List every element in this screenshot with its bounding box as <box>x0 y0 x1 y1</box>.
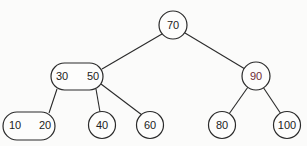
node-70: 70 <box>159 11 187 39</box>
edge-left-lr <box>101 84 142 115</box>
edge-root-right <box>185 33 245 69</box>
node-80: 80 <box>209 112 236 139</box>
node-100: 100 <box>274 112 301 139</box>
node-label: 30 <box>56 70 68 82</box>
node-label: 80 <box>216 119 228 131</box>
edge-root-left <box>102 34 162 69</box>
node-label: 70 <box>167 19 179 31</box>
node-60: 60 <box>137 112 164 139</box>
node-label: 60 <box>144 119 156 131</box>
node-40: 40 <box>89 112 116 139</box>
tree-diagram: 70 30 50 90 10 20 40 60 80 100 <box>0 0 307 146</box>
edge-right-rr <box>263 87 281 114</box>
node-10-20: 10 20 <box>3 112 55 140</box>
edge-left-lm <box>96 89 100 112</box>
node-label: 40 <box>96 119 108 131</box>
edge-right-rl <box>229 87 248 114</box>
node-90: 90 <box>242 62 270 90</box>
node-30-50: 30 50 <box>51 63 103 90</box>
node-label: 100 <box>278 119 296 131</box>
edge-left-ll <box>49 89 57 113</box>
node-label: 90 <box>250 70 262 82</box>
node-label: 10 <box>9 119 21 131</box>
node-label: 50 <box>87 70 99 82</box>
node-label: 20 <box>39 119 51 131</box>
